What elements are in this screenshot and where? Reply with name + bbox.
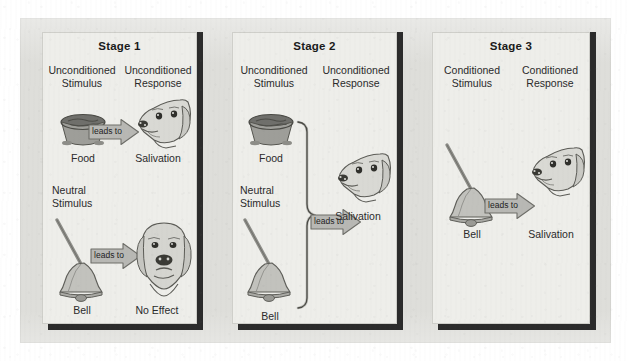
stage-1-stimulus-heading-line1: Unconditioned [44, 64, 120, 77]
stage-3-title: Stage 3 [432, 40, 590, 52]
stage-1-neutral-stimulus-label: Neutral Stimulus [44, 184, 108, 209]
stage-3-right-shadow [590, 32, 596, 324]
stage-2-title: Stage 2 [232, 40, 397, 52]
stage-1-neutral-line1: Neutral [52, 184, 108, 197]
stage-3-stimulus-heading-line2: Stimulus [434, 77, 510, 90]
stage-1-row-2-stimulus-caption: Bell [44, 304, 120, 316]
stage-2-neutral-line1: Neutral [240, 184, 296, 197]
stage-1-response-heading-line2: Response [120, 77, 196, 90]
food-bowl-icon [242, 112, 300, 154]
stage-1-neutral-line2: Stimulus [52, 197, 108, 210]
stage-3-stimulus-caption: Bell [434, 228, 510, 240]
classical-conditioning-figure: Stage 1 Unconditioned Stimulus Unconditi… [0, 0, 628, 361]
stage-1-title: Stage 1 [42, 40, 197, 52]
dog-salivating-icon [130, 96, 194, 156]
stage-2-stimulus-heading-line1: Unconditioned [232, 64, 316, 77]
stage-2-neutral-stimulus-label: Neutral Stimulus [232, 184, 296, 209]
stage-2-panel: Stage 2 Unconditioned Stimulus Unconditi… [232, 32, 397, 324]
stage-1-row-1-arrow-label: leads to [90, 126, 124, 136]
stage-1-stimulus-heading-line2: Stimulus [44, 77, 120, 90]
stage-3-response-heading-line1: Conditioned [512, 64, 588, 77]
stage-1-row-1-response-caption: Salivation [120, 152, 196, 164]
stage-1-response-heading-line1: Unconditioned [120, 64, 196, 77]
stage-3-stimulus-heading-line1: Conditioned [434, 64, 510, 77]
stage-1-row-1-stimulus-caption: Food [44, 152, 122, 164]
stage-1-response-heading: Unconditioned Response [120, 64, 196, 89]
stage-1-bottom-shadow [48, 324, 203, 330]
stage-2-response-heading: Unconditioned Response [316, 64, 396, 89]
dog-salivating-icon [330, 150, 394, 210]
stage-2-stimulus-heading: Unconditioned Stimulus [232, 64, 316, 89]
stage-1-row-2-arrow-label: leads to [92, 250, 126, 260]
dog-salivating-icon [524, 144, 588, 204]
bell-icon [238, 217, 302, 307]
stage-2-neutral-line2: Stimulus [240, 197, 296, 210]
stage-3-response-caption: Salivation [512, 228, 590, 240]
stage-3-panel: Stage 3 Conditioned Stimulus Conditioned… [432, 32, 590, 324]
stage-1-right-shadow [197, 32, 203, 324]
stage-2-response-heading-line2: Response [316, 77, 396, 90]
stage-2-right-shadow [397, 32, 403, 324]
stage-3-response-heading: Conditioned Response [512, 64, 588, 89]
stage-2-stimulus-heading-line2: Stimulus [232, 77, 316, 90]
stage-2-arrow-label: leads to [312, 216, 346, 226]
stage-2-bottom-shadow [238, 324, 403, 330]
stage-3-bottom-shadow [438, 324, 596, 330]
stage-3-response-heading-line2: Response [512, 77, 588, 90]
stage-1-panel: Stage 1 Unconditioned Stimulus Unconditi… [42, 32, 197, 324]
stage-1-stimulus-heading: Unconditioned Stimulus [44, 64, 120, 89]
stage-3-arrow-label: leads to [486, 200, 520, 210]
stage-3-stimulus-heading: Conditioned Stimulus [434, 64, 510, 89]
dog-no-effect-icon [134, 220, 194, 302]
stage-2-response-heading-line1: Unconditioned [316, 64, 396, 77]
stage-1-row-2-response-caption: No Effect [118, 304, 196, 316]
